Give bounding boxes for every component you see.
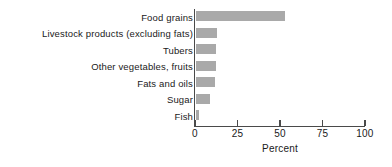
x-tick-label-75: 75 [317, 128, 329, 140]
x-tick-label-0: 0 [192, 128, 198, 140]
category-label-fish: Fish [174, 111, 193, 122]
x-tick-label-50: 50 [274, 128, 286, 140]
y-axis-line [194, 9, 195, 126]
horizontal-bar-chart: Food grains Livestock products (excludin… [0, 0, 392, 167]
bar-food-grains [196, 11, 285, 21]
bar-other-vegetables-fruits [196, 61, 216, 71]
x-tick-75 [322, 120, 323, 126]
x-tick-0 [194, 120, 195, 126]
bar-sugar [196, 94, 210, 104]
bar-fats-and-oils [196, 77, 215, 87]
x-axis-title: Percent [195, 143, 365, 155]
x-tick-label-100: 100 [356, 128, 373, 140]
category-label-livestock-products: Livestock products (excluding fats) [42, 28, 193, 39]
x-tick-25 [237, 120, 238, 126]
category-label-other-vegetables-fruits: Other vegetables, fruits [91, 61, 193, 72]
bar-tubers [196, 44, 216, 54]
category-label-tubers: Tubers [163, 45, 193, 56]
x-tick-100 [364, 120, 365, 126]
category-label-food-grains: Food grains [141, 12, 193, 23]
x-tick-label-25: 25 [232, 128, 244, 140]
bar-livestock-products [196, 28, 217, 38]
x-tick-50 [279, 120, 280, 126]
bar-fish [196, 110, 199, 120]
category-label-fats-and-oils: Fats and oils [137, 78, 193, 89]
category-label-sugar: Sugar [167, 94, 193, 105]
